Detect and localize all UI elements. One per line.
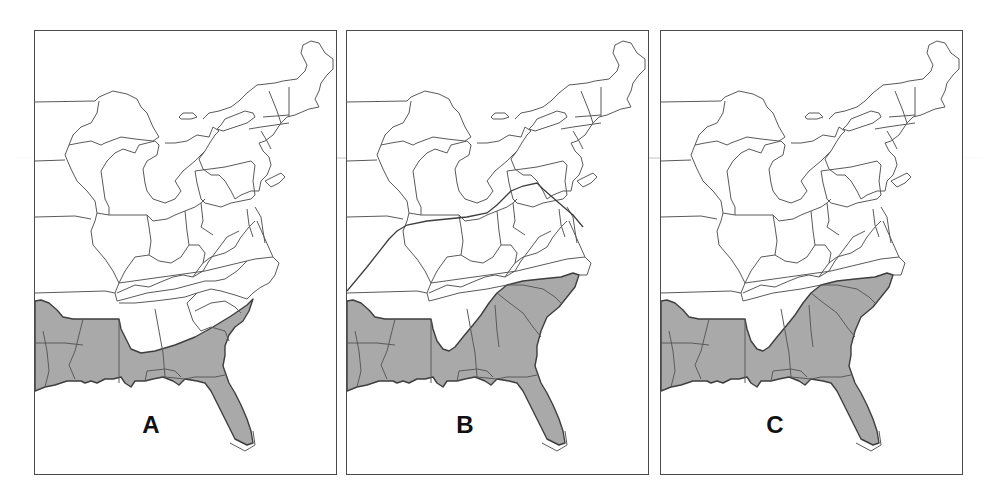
- map-panel-c: C: [660, 30, 963, 475]
- panel-label-b: B: [445, 411, 485, 439]
- state-boundaries-c: [661, 41, 959, 451]
- map-b-svg: [347, 31, 649, 475]
- panel-label-c: C: [755, 411, 795, 439]
- map-panel-b: B: [346, 30, 649, 475]
- map-a-svg: [35, 31, 337, 475]
- state-boundaries-b: [347, 41, 645, 451]
- map-c-svg: [661, 31, 963, 475]
- map-panel-a: A: [34, 30, 337, 475]
- state-boundaries-a: [35, 41, 333, 451]
- panel-label-a: A: [131, 411, 171, 439]
